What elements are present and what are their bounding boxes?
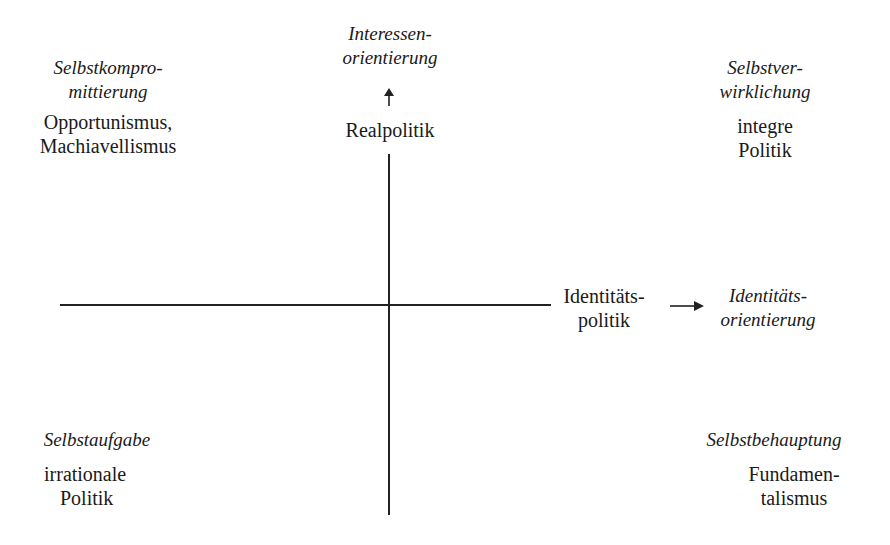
quadrant-description: talismus xyxy=(684,486,864,510)
label-line: politik xyxy=(556,308,652,332)
horizontal-axis-end-label: Identitäts- orientierung xyxy=(712,284,824,332)
quadrant-title: Selbstbehauptung xyxy=(684,428,864,452)
quadrant-description: Machiavellismus xyxy=(28,134,188,158)
quadrant-description: Opportunismus, xyxy=(28,110,188,134)
quadrant-title: mittierung xyxy=(28,80,188,104)
quadrant-title: Selbstver- xyxy=(690,56,840,80)
horizontal-axis xyxy=(60,304,551,306)
quadrant-title: Selbstkompro- xyxy=(28,56,188,80)
quadrant-bottom-left: Selbstaufgabe irrationale Politik xyxy=(22,428,172,510)
label-line: Identitäts- xyxy=(556,284,652,308)
quadrant-title: Selbstaufgabe xyxy=(22,428,172,452)
quadrant-top-right: Selbstver- wirklichung integre Politik xyxy=(690,56,840,162)
label-line: Interessen- xyxy=(325,22,455,46)
quadrant-bottom-right: Selbstbehauptung Fundamen- talismus xyxy=(684,428,864,510)
quadrant-title: wirklichung xyxy=(690,80,840,104)
horizontal-axis-start-label: Identitäts- politik xyxy=(556,284,652,332)
up-arrow-icon xyxy=(384,88,394,106)
right-arrow-icon xyxy=(670,301,704,311)
quadrant-description: irrationale xyxy=(22,462,172,486)
quadrant-description: Politik xyxy=(22,486,172,510)
quadrant-description: Fundamen- xyxy=(684,462,864,486)
vertical-axis-end-label: Interessen- orientierung xyxy=(325,22,455,70)
quadrant-description: integre xyxy=(690,114,840,138)
vertical-axis-start-label: Realpolitik xyxy=(325,118,455,142)
label-line: orientierung xyxy=(325,46,455,70)
label-line: Identitäts- xyxy=(712,284,824,308)
vertical-axis xyxy=(388,154,390,515)
quadrant-top-left: Selbstkompro- mittierung Opportunismus, … xyxy=(28,56,188,158)
label-line: orientierung xyxy=(712,308,824,332)
quadrant-description: Politik xyxy=(690,138,840,162)
